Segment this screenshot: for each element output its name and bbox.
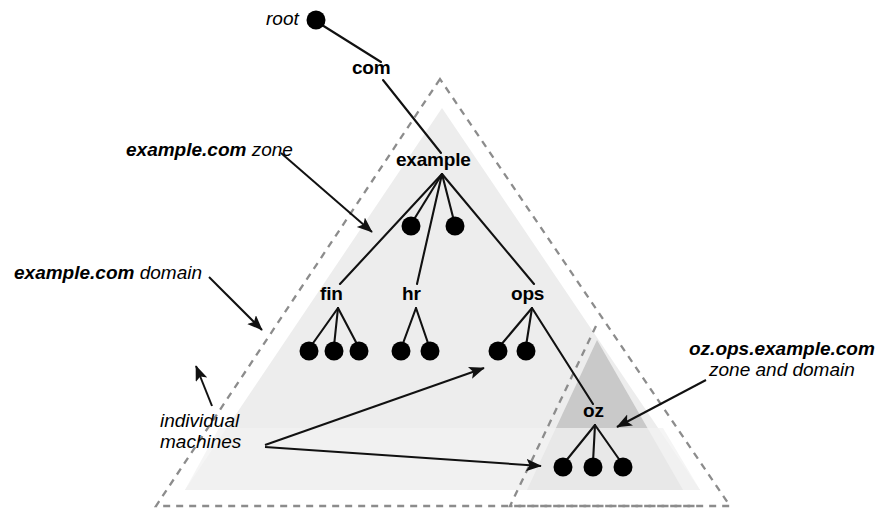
annotation-example-com-zone: example.com zone: [126, 139, 293, 160]
machine-dot: [517, 342, 536, 361]
dns-zone-diagram: root com example fin hr ops oz example.c…: [0, 0, 885, 524]
annotation-individual-machines-line1: individual: [160, 410, 241, 431]
node-label-fin: fin: [320, 283, 343, 304]
root-label: root: [266, 8, 299, 29]
machine-dot: [584, 458, 603, 477]
annotation-oz-zone-domain-strong: oz.ops.example.com: [689, 338, 875, 359]
machine-dot: [402, 217, 421, 236]
annotation-example-com-zone-strong: example.com: [126, 139, 246, 160]
annotation-individual-machines: individual machines: [160, 410, 241, 453]
arrow-example-com-zone: [281, 153, 372, 232]
arrow-individual-machines-up: [196, 366, 212, 406]
annotation-individual-machines-line2: machines: [160, 431, 241, 452]
machine-dot: [421, 342, 440, 361]
machine-dot: [489, 342, 508, 361]
node-label-hr: hr: [402, 283, 421, 304]
annotation-oz-zone-domain-plain: zone and domain: [689, 359, 875, 380]
arrow-example-com-domain: [209, 277, 262, 330]
machine-dot: [300, 342, 319, 361]
machine-dot: [554, 458, 573, 477]
annotation-example-com-zone-plain: zone: [246, 139, 292, 160]
annotation-example-com-domain-plain: domain: [134, 262, 202, 283]
machine-dot: [325, 342, 344, 361]
node-label-oz: oz: [583, 400, 604, 421]
root-dot: [307, 11, 326, 30]
annotation-example-com-domain: example.com domain: [14, 262, 202, 283]
machine-dot: [446, 217, 465, 236]
node-label-example: example: [396, 149, 471, 170]
machine-dot: [350, 342, 369, 361]
node-label-ops: ops: [511, 283, 544, 304]
machine-dot: [614, 458, 633, 477]
annotation-oz-zone-domain: oz.ops.example.com zone and domain: [689, 338, 875, 381]
annotation-example-com-domain-strong: example.com: [14, 262, 134, 283]
machine-dot: [392, 342, 411, 361]
node-label-com: com: [352, 57, 390, 78]
